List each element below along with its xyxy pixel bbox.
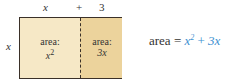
left-cell-value: x2: [30, 47, 70, 61]
right-cell-label: area:: [83, 36, 121, 47]
left-cell: area: x2: [30, 36, 70, 61]
top-plus-label: +: [76, 1, 82, 13]
top-x-label: x: [43, 1, 48, 13]
area-rectangle: area: x2 area: 3x: [19, 17, 122, 79]
area-equation: area = x2 + 3x: [149, 33, 220, 49]
top-3-label: 3: [99, 1, 105, 13]
left-cell-label: area:: [30, 36, 70, 47]
side-x-label: x: [6, 40, 11, 52]
right-cell: area: 3x: [80, 18, 122, 78]
right-cell-value: 3x: [83, 47, 121, 58]
